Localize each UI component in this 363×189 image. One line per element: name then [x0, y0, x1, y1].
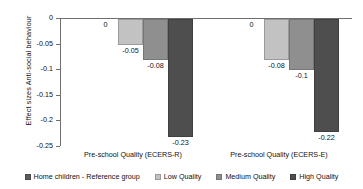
x-axis-category-label: Pre-school Quality (ECERS-E) — [206, 150, 352, 159]
bar-medium-group-2 — [289, 19, 314, 70]
chart-legend: Home children - Reference groupLow Quali… — [0, 172, 363, 181]
plot-area: 0-0.05-0.1-0.15-0.2-0.250-0.05-0.08-0.23… — [60, 18, 352, 146]
legend-label: Low Quality — [164, 172, 202, 181]
legend-label: Medium Quality — [225, 172, 275, 181]
legend-item-high: High Quality — [290, 172, 338, 181]
bar-value-label: -0.23 — [161, 138, 200, 147]
anti-social-behaviour-bar-chart: Effect sizes Anti-social behaviour 0-0.0… — [0, 0, 363, 189]
y-axis-tick-label: -0.25 — [37, 141, 53, 150]
bar-high-group-1 — [168, 19, 193, 137]
y-axis-tick: -0.1 — [56, 69, 60, 70]
x-axis-category-label: Pre-school Quality (ECERS-R) — [60, 150, 206, 159]
y-axis-tick: -0.25 — [56, 146, 60, 147]
bar-high-group-2 — [314, 19, 339, 132]
y-axis-tick: -0.05 — [56, 44, 60, 45]
y-axis-tick-label: 0 — [49, 13, 53, 22]
y-axis-title: Effect sizes Anti-social behaviour — [24, 0, 33, 146]
bar-low-group-1 — [118, 19, 143, 45]
y-axis-tick-label: -0.1 — [41, 64, 53, 73]
y-axis-line — [60, 18, 61, 146]
y-axis-tick-label: -0.2 — [41, 115, 53, 124]
y-axis-tick: 0 — [56, 18, 60, 19]
legend-swatch-icon — [25, 174, 31, 180]
legend-swatch-icon — [216, 174, 222, 180]
legend-item-low: Low Quality — [155, 172, 202, 181]
y-axis-tick-label: -0.15 — [37, 90, 53, 99]
legend-swatch-icon — [155, 174, 161, 180]
bar-value-label: -0.22 — [307, 133, 346, 142]
y-axis-tick: -0.15 — [56, 95, 60, 96]
legend-label: High Quality — [299, 172, 338, 181]
y-axis-tick: -0.2 — [56, 120, 60, 121]
legend-item-medium: Medium Quality — [216, 172, 275, 181]
y-axis-tick-label: -0.05 — [37, 39, 53, 48]
legend-item-ref: Home children - Reference group — [25, 172, 140, 181]
legend-swatch-icon — [290, 174, 296, 180]
legend-label: Home children - Reference group — [34, 172, 140, 181]
bar-medium-group-1 — [143, 19, 168, 60]
bar-low-group-2 — [264, 19, 289, 60]
